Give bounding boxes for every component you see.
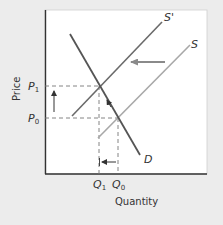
tick-q1: Q1 <box>93 178 106 192</box>
chart-svg: S' S D P1 P0 Q1 Q0 Price Quantity <box>0 0 223 225</box>
tick-p1: P1 <box>28 80 39 94</box>
tick-q0: Q0 <box>112 178 125 192</box>
label-s: S <box>191 38 198 51</box>
y-axis-title: Price <box>11 77 22 101</box>
tick-p0: P0 <box>28 112 39 126</box>
label-d: D <box>144 153 152 166</box>
x-axis-title: Quantity <box>115 196 158 207</box>
label-s-prime: S' <box>164 11 174 24</box>
supply-demand-chart: S' S D P1 P0 Q1 Q0 Price Quantity <box>0 0 223 225</box>
plot-area <box>45 10 207 174</box>
